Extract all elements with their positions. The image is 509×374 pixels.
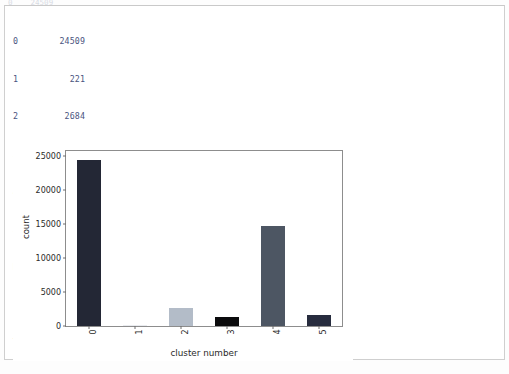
series-row: 1221 (13, 73, 196, 86)
bar (77, 160, 102, 326)
matplotlib-figure: count 0500010000150002000025000012345 cl… (13, 139, 353, 361)
plot-area: 0500010000150002000025000012345 (66, 151, 342, 326)
bar (169, 308, 194, 326)
bar (215, 317, 240, 326)
series-value: 2684 (39, 110, 85, 123)
y-axis-tick-label: 10000 (36, 254, 61, 263)
series-index: 0 (13, 35, 39, 48)
series-value: 221 (39, 73, 85, 86)
output-frame: 024509 1221 22684 31380 414734 51683 Nam… (4, 5, 505, 360)
y-axis-tick-label: 25000 (36, 152, 61, 161)
bar (307, 315, 332, 326)
bar (261, 226, 286, 326)
x-axis-label: cluster number (65, 348, 343, 358)
y-axis-tick-mark (63, 224, 66, 225)
x-axis-tick-label: 5 (319, 329, 328, 334)
series-row: 22684 (13, 110, 196, 123)
y-axis-tick-mark (63, 258, 66, 259)
y-axis-tick-mark (63, 326, 66, 327)
y-axis-tick-label: 15000 (36, 220, 61, 229)
y-axis-label: count (21, 215, 31, 239)
x-axis-tick-label: 2 (181, 329, 190, 334)
y-axis-tick-label: 20000 (36, 186, 61, 195)
x-axis-tick-label: 1 (135, 329, 144, 334)
y-axis-tick-label: 5000 (41, 288, 61, 297)
notebook-output-cell: 0 24509 024509 1221 22684 31380 414734 5… (0, 0, 509, 374)
series-index: 1 (13, 73, 39, 86)
series-value: 24509 (39, 35, 85, 48)
y-axis-tick-mark (63, 156, 66, 157)
x-axis-tick-label: 4 (273, 329, 282, 334)
series-row: 024509 (13, 35, 196, 48)
x-axis-tick-label: 3 (227, 329, 236, 334)
y-axis-tick-label: 0 (56, 322, 61, 331)
y-axis-tick-mark (63, 292, 66, 293)
y-axis-tick-mark (63, 190, 66, 191)
series-index: 2 (13, 110, 39, 123)
plot-axes: 0500010000150002000025000012345 (65, 150, 343, 327)
x-axis-tick-label: 0 (89, 329, 98, 334)
